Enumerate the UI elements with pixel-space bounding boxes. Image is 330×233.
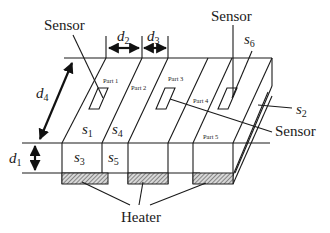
heater-2 [128,173,168,184]
dim-d4: d4 [36,85,49,103]
heater-label: Heater [121,209,161,225]
part-3-label: Part 3 [168,75,183,82]
dim-d3: d3 [147,28,160,46]
surface-s3: s3 [74,149,85,167]
heater-3 [193,173,233,184]
block-diagram: Sensor Sensor Sensor Heater d2 d3 d4 d1 … [0,0,330,233]
surface-s4: s4 [112,121,123,139]
sensor-label-right: Sensor [275,123,316,139]
surface-s1: s1 [82,121,93,139]
surface-s2: s2 [296,101,307,119]
block-outline [22,58,272,184]
part-2-label: Part 2 [131,84,146,91]
dim-d2: d2 [117,28,130,46]
sensor-pads [89,88,237,109]
part-5-label: Part 5 [203,133,218,140]
part-1-label: Part 1 [103,77,118,84]
dim-d1: d1 [9,150,22,168]
surface-s5: s5 [108,149,119,167]
heater-strips [62,173,233,184]
surface-s6: s6 [244,31,255,49]
sensor-label-top-right: Sensor [211,8,252,24]
sensor-label-left: Sensor [44,17,85,33]
heater-1 [62,173,108,184]
part-4-label: Part 4 [193,97,209,104]
diagram-canvas: Sensor Sensor Sensor Heater d2 d3 d4 d1 … [0,0,330,233]
